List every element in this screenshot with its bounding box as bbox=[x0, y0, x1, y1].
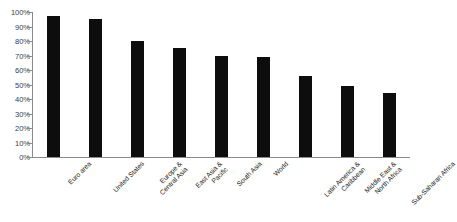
x-tick-label: East Asia &Pacific bbox=[194, 160, 230, 196]
bar bbox=[173, 48, 186, 157]
y-tick-label: 90% bbox=[0, 22, 30, 31]
bar bbox=[257, 57, 270, 157]
y-tick-mark bbox=[28, 99, 32, 100]
y-tick-mark bbox=[28, 27, 32, 28]
y-tick-label: 0% bbox=[0, 153, 30, 162]
x-tick-label: Europe &Central Asia bbox=[152, 160, 189, 197]
x-tick-label-line: Euro area bbox=[67, 160, 93, 186]
y-tick-label: 20% bbox=[0, 124, 30, 133]
x-tick-label: Latin America &Caribbean bbox=[323, 160, 367, 204]
x-tick-label: Middle East &North Africa bbox=[363, 160, 404, 201]
y-tick-label: 80% bbox=[0, 37, 30, 46]
x-tick-label-line: South Asia bbox=[235, 160, 263, 188]
x-tick-label: Euro area bbox=[67, 160, 93, 186]
y-tick-label: 70% bbox=[0, 51, 30, 60]
x-tick-label: United States bbox=[112, 160, 146, 194]
y-tick-mark bbox=[28, 114, 32, 115]
y-tick-mark bbox=[28, 41, 32, 42]
x-tick-label: South Asia bbox=[235, 160, 263, 188]
x-axis-line bbox=[32, 157, 410, 158]
y-tick-mark bbox=[28, 143, 32, 144]
x-tick-label: World bbox=[272, 160, 290, 178]
y-tick-mark bbox=[28, 56, 32, 57]
y-tick-label: 30% bbox=[0, 109, 30, 118]
y-tick-mark bbox=[28, 70, 32, 71]
x-tick-label: Sub-Saharan Africa bbox=[410, 160, 457, 207]
bar bbox=[215, 56, 228, 158]
y-tick-label: 100% bbox=[0, 8, 30, 17]
x-tick-label-line: World bbox=[272, 160, 290, 178]
y-tick-mark bbox=[28, 85, 32, 86]
bar bbox=[383, 93, 396, 157]
bar bbox=[131, 41, 144, 157]
x-tick-label-line: Sub-Saharan Africa bbox=[410, 160, 457, 207]
bar bbox=[89, 19, 102, 157]
y-tick-label: 10% bbox=[0, 138, 30, 147]
y-axis: 100%90%80%70%60%50%40%30%20%10%0% bbox=[0, 0, 30, 222]
y-tick-mark bbox=[28, 128, 32, 129]
plot-area bbox=[33, 12, 410, 157]
x-tick-label-line: United States bbox=[112, 160, 146, 194]
y-tick-label: 50% bbox=[0, 80, 30, 89]
x-axis: Euro areaUnited StatesEurope &Central As… bbox=[33, 160, 410, 222]
y-tick-mark bbox=[28, 157, 32, 158]
bar bbox=[47, 16, 60, 157]
y-tick-mark bbox=[28, 12, 32, 13]
y-tick-label: 60% bbox=[0, 66, 30, 75]
bar bbox=[341, 86, 354, 157]
bar bbox=[299, 76, 312, 157]
y-tick-label: 40% bbox=[0, 95, 30, 104]
